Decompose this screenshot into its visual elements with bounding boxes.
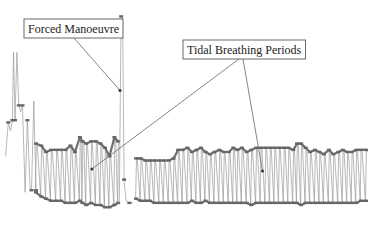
trough-point xyxy=(204,200,208,202)
trough-point xyxy=(286,202,290,204)
peak-point xyxy=(227,151,231,153)
peak-point xyxy=(195,149,199,151)
peak-point xyxy=(181,149,185,151)
trough-point xyxy=(153,202,157,204)
trough-point xyxy=(54,200,58,202)
peak-point xyxy=(186,147,190,149)
trough-point xyxy=(167,202,171,204)
peak-point xyxy=(176,149,180,151)
trough-point xyxy=(108,206,112,208)
trough-point xyxy=(162,202,166,204)
data-point xyxy=(17,104,21,106)
peak-point xyxy=(268,147,272,149)
peak-point xyxy=(190,151,194,153)
trough-point xyxy=(99,204,103,206)
peak-point xyxy=(69,145,73,147)
label-tidal-breathing-periods: Tidal Breathing Periods xyxy=(187,43,302,57)
peak-point xyxy=(286,147,290,149)
trough-point xyxy=(73,202,77,204)
trough-point xyxy=(354,202,358,204)
label-forced-manoeuvre: Forced Manoeuvre xyxy=(28,22,119,36)
trough-point xyxy=(295,202,299,204)
trough-point xyxy=(249,204,253,206)
trough-point xyxy=(318,202,322,204)
trough-point xyxy=(364,200,368,202)
trough-point xyxy=(134,198,138,200)
trough-point xyxy=(308,202,312,204)
trough-point xyxy=(240,202,244,204)
peak-point xyxy=(84,142,88,144)
peak-point xyxy=(89,140,93,142)
trough-point xyxy=(139,200,143,202)
peak-point xyxy=(231,147,235,149)
peak-envelope-3 xyxy=(136,144,366,161)
peak-point xyxy=(99,142,103,144)
peak-point xyxy=(299,142,303,144)
peak-point xyxy=(162,159,166,161)
trough-point xyxy=(291,202,295,204)
peak-point xyxy=(167,159,171,161)
trough-point xyxy=(304,202,308,204)
peak-point xyxy=(304,147,308,149)
data-point xyxy=(13,119,17,121)
peak-point xyxy=(249,149,253,151)
peak-point xyxy=(341,149,345,151)
peak-point xyxy=(350,151,354,153)
trough-point xyxy=(331,202,335,204)
trough-point xyxy=(69,202,73,204)
peak-point xyxy=(322,153,326,155)
trough-point xyxy=(190,200,194,202)
peak-point xyxy=(264,147,268,149)
trough-point xyxy=(39,195,43,197)
peak-point xyxy=(112,136,116,138)
peak-point xyxy=(172,157,176,159)
trough-point xyxy=(44,198,48,200)
trough-point xyxy=(213,202,217,204)
trough-point xyxy=(34,191,38,193)
trough-point xyxy=(345,202,349,204)
breathing-trace-chart: Forced Manoeuvre Tidal Breathing Periods xyxy=(0,0,375,226)
peak-point xyxy=(157,159,161,161)
peak-point xyxy=(245,151,249,153)
trough-point xyxy=(277,202,281,204)
trough-point xyxy=(186,202,190,204)
peak-point xyxy=(336,151,340,153)
peak-point xyxy=(73,151,77,153)
peak-point xyxy=(213,151,217,153)
peak-point xyxy=(282,147,286,149)
trough-point xyxy=(259,202,263,204)
peak-point xyxy=(259,147,263,149)
annotation-forced-manoeuvre: Forced Manoeuvre xyxy=(24,19,123,92)
peak-point xyxy=(273,147,277,149)
arrowhead-icon xyxy=(90,168,93,171)
trough-point xyxy=(112,204,116,206)
peak-point xyxy=(54,149,58,151)
arrow-tidal-breathing-left xyxy=(92,59,239,169)
peak-point xyxy=(345,151,349,153)
peak-point xyxy=(235,149,239,151)
trace-segment-2 xyxy=(119,16,133,203)
peak-point xyxy=(204,151,208,153)
trough-point xyxy=(208,202,212,204)
trough-point xyxy=(49,200,53,202)
data-point xyxy=(25,119,29,121)
peak-point xyxy=(254,147,258,149)
trough-point xyxy=(313,202,317,204)
peak-point xyxy=(94,140,98,142)
peak-point xyxy=(240,147,244,149)
trough-point xyxy=(299,204,303,206)
trough-point xyxy=(78,200,82,202)
trough-point xyxy=(322,202,326,204)
peak-point xyxy=(103,147,107,149)
trough-point xyxy=(222,202,226,204)
peak-point xyxy=(364,149,368,151)
trough-point xyxy=(148,200,152,202)
peak-point xyxy=(208,153,212,155)
trough-point xyxy=(176,202,180,204)
peak-point xyxy=(44,151,48,153)
trough-point xyxy=(227,202,231,204)
peak-point xyxy=(139,157,143,159)
trough-point xyxy=(181,202,185,204)
peak-point xyxy=(318,151,322,153)
data-point xyxy=(6,121,10,123)
